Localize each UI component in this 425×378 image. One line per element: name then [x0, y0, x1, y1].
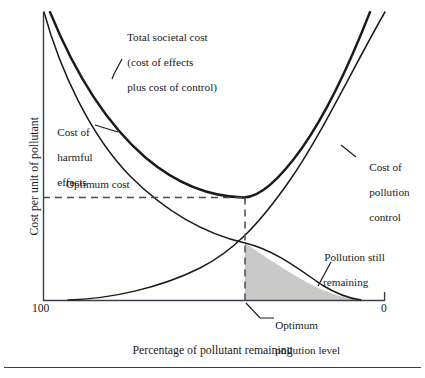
pollution-cost-chart: Total societal cost (cost of effects plu… — [0, 0, 425, 378]
x-axis-tick-label-0: 0 — [381, 303, 387, 316]
x-axis-tick-label-100: 100 — [32, 303, 49, 316]
label-optimum-pollution-level: Optimum pollution level — [264, 306, 340, 369]
label-total-societal-cost-line2: (cost of effects — [127, 56, 193, 68]
label-cost-of-harmful-effects-line2: harmful — [57, 151, 92, 163]
x-axis-title: Percentage of pollutant remaining — [0, 344, 425, 357]
label-cost-of-harmful-effects-line1: Cost of — [57, 126, 90, 138]
label-pollution-still-remaining-line2: remaining — [313, 276, 385, 289]
label-cost-of-pollution-control-line1: Cost of — [369, 161, 402, 173]
bottom-divider — [4, 367, 421, 368]
label-pollution-still-remaining: Pollution still remaining — [313, 238, 385, 314]
label-total-societal-cost-line3: plus cost of control) — [127, 81, 217, 93]
label-optimum-cost: Optimum cost — [66, 178, 130, 191]
y-axis-title: Cost per unit of pollutant — [28, 76, 41, 276]
label-cost-of-pollution-control: Cost of pollution control — [358, 148, 410, 236]
label-pollution-still-remaining-line1: Pollution still — [324, 251, 385, 263]
label-optimum-pollution-level-line1: Optimum — [275, 319, 318, 331]
label-cost-of-pollution-control-line3: control — [369, 211, 401, 223]
cost-of-pollution-control-leader — [341, 145, 356, 157]
label-total-societal-cost: Total societal cost (cost of effects plu… — [116, 18, 217, 106]
label-cost-of-pollution-control-line2: pollution — [369, 186, 409, 198]
label-total-societal-cost-line1: Total societal cost — [127, 31, 208, 43]
